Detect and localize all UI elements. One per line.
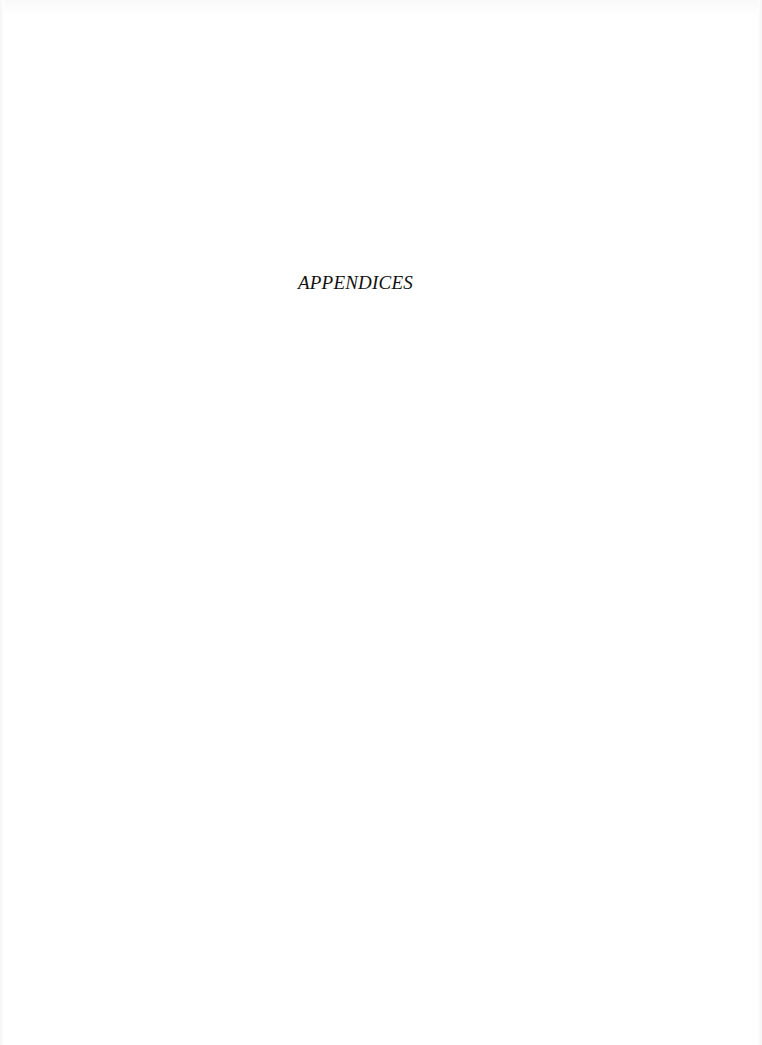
page-edge-left <box>0 0 4 1045</box>
scan-bleed-through <box>0 0 762 14</box>
page-edge-right <box>758 0 762 1045</box>
section-title: APPENDICES <box>298 272 413 294</box>
document-page: APPENDICES <box>0 0 762 1045</box>
